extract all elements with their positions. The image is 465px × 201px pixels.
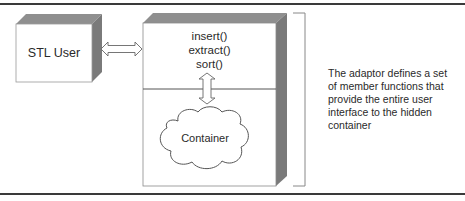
horizontal-double-arrow-icon (101, 42, 142, 56)
container-label: Container (160, 132, 250, 144)
annotation-text: The adaptor defines a set of member func… (328, 67, 458, 132)
stl-user-box-side-bevel (92, 14, 102, 82)
adaptor-box-side-bevel (276, 13, 287, 186)
annotation-bracket (293, 13, 305, 186)
adaptor-method-list: insert() extract() sort() (143, 29, 276, 71)
method-insert: insert() (143, 29, 276, 43)
stl-user-label: STL User (16, 46, 92, 60)
adaptor-box-top-bevel (143, 13, 287, 23)
method-extract: extract() (143, 43, 276, 57)
stl-user-box-top-bevel (16, 14, 102, 24)
method-sort: sort() (143, 57, 276, 71)
